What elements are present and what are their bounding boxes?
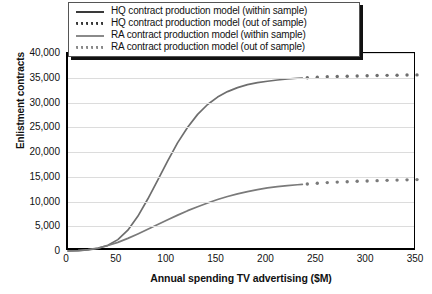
gridline [68, 226, 414, 227]
x-tick-label: 150 [196, 253, 236, 264]
y-tick-label: 40,000 [14, 47, 60, 58]
legend-dotted-line-icon [75, 42, 105, 53]
gridline [68, 177, 414, 178]
x-tick-label: 0 [46, 253, 86, 264]
y-tick-label: 15,000 [14, 170, 60, 181]
series-dot [405, 73, 408, 76]
series-dot [316, 181, 319, 184]
gridline [68, 152, 414, 153]
series-dot [375, 179, 378, 182]
x-tick-label: 50 [96, 253, 136, 264]
series-dot [415, 73, 418, 76]
legend-item: RA contract production model (within sam… [75, 29, 355, 41]
y-tick-label: 10,000 [14, 195, 60, 206]
gridline [68, 103, 414, 104]
series-dot [395, 73, 398, 76]
legend-solid-line-icon [75, 6, 105, 17]
series-dot [385, 74, 388, 77]
y-axis-tick-labels: 05,00010,00015,00020,00025,00030,00035,0… [12, 0, 60, 294]
y-tick-label: 35,000 [14, 71, 60, 82]
series-dot [355, 180, 358, 183]
series-dot [385, 179, 388, 182]
y-tick-label: 30,000 [14, 96, 60, 107]
x-tick-label: 300 [345, 253, 385, 264]
series-dot [415, 178, 418, 181]
legend-solid-line-icon [75, 30, 105, 41]
series-dot [405, 178, 408, 181]
legend-item: RA contract production model (out of sam… [75, 41, 355, 53]
x-tick-label: 200 [245, 253, 285, 264]
legend-dotted-line-icon [75, 18, 105, 29]
legend-item-label: HQ contract production model (out of sam… [111, 17, 307, 29]
series-dot [365, 179, 368, 182]
legend-item-label: HQ contract production model (within sam… [111, 5, 307, 17]
legend-item-label: RA contract production model (within sam… [111, 29, 306, 41]
gridline [68, 127, 414, 128]
y-tick-label: 20,000 [14, 146, 60, 157]
legend-item: HQ contract production model (within sam… [75, 5, 355, 17]
y-tick-label: 25,000 [14, 121, 60, 132]
series-line [68, 184, 302, 251]
gridline [68, 78, 414, 79]
x-tick-label: 350 [395, 253, 432, 264]
legend-item-label: RA contract production model (out of sam… [111, 41, 305, 53]
series-dot [336, 180, 339, 183]
series-dot [346, 180, 349, 183]
x-axis-title: Annual spending TV advertising ($M) [66, 272, 416, 284]
x-tick-label: 250 [295, 253, 335, 264]
series-dot [395, 178, 398, 181]
chart-figure: Enlistment contracts 05,00010,00015,0002… [0, 0, 432, 294]
y-tick-label: 5,000 [14, 220, 60, 231]
gridline [68, 202, 414, 203]
series-dot [375, 74, 378, 77]
series-dot [306, 182, 309, 185]
series-line [68, 78, 302, 251]
x-tick-label: 100 [146, 253, 186, 264]
legend-item: HQ contract production model (out of sam… [75, 17, 355, 29]
chart-legend: HQ contract production model (within sam… [68, 2, 360, 57]
series-dot [326, 181, 329, 184]
plot-area [66, 52, 415, 250]
